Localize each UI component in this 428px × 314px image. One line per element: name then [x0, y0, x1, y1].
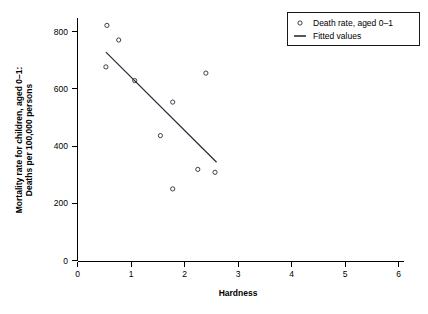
data-point: [213, 170, 217, 174]
x-tick-label: 2: [182, 269, 187, 279]
x-axis-title: Hardness: [219, 288, 258, 298]
legend-label-fitted-values: Fitted values: [313, 31, 361, 41]
data-point: [104, 65, 108, 69]
data-point: [171, 187, 175, 191]
y-tick-label: 200: [54, 198, 68, 208]
data-point: [158, 134, 162, 138]
legend-label-death-rate: Death rate, aged 0–1: [313, 18, 393, 28]
x-tick-label: 5: [343, 269, 348, 279]
chart-figure: 800 600 400 200 0 0 1 2 3 4 5 6: [0, 0, 428, 314]
data-point: [171, 100, 175, 104]
y-axis-ticks: 800 600 400 200 0: [54, 27, 78, 266]
x-tick-label: 3: [236, 269, 241, 279]
y-axis-title-line1: Mortality rate for children, aged 0–1:: [14, 67, 24, 214]
y-tick-label: 400: [54, 141, 68, 151]
data-point: [117, 38, 121, 42]
scatter-plot-svg: 800 600 400 200 0 0 1 2 3 4 5 6: [0, 0, 428, 314]
y-tick-label: 0: [63, 256, 68, 266]
y-tick-label: 600: [54, 84, 68, 94]
chart-legend[interactable]: Death rate, aged 0–1 Fitted values: [288, 13, 420, 46]
y-axis-title-line2: Deaths per 100,000 persons: [24, 84, 34, 197]
x-tick-label: 0: [75, 269, 80, 279]
x-tick-label: 1: [129, 269, 134, 279]
y-axis-title: Mortality rate for children, aged 0–1: D…: [14, 67, 34, 214]
y-tick-label: 800: [54, 27, 68, 37]
data-point: [204, 71, 208, 75]
fitted-values-line: [106, 52, 217, 162]
x-tick-label: 4: [289, 269, 294, 279]
data-point: [105, 23, 109, 27]
x-tick-label: 6: [396, 269, 401, 279]
data-point: [196, 167, 200, 171]
x-axis-ticks: 0 1 2 3 4 5 6: [75, 262, 401, 280]
